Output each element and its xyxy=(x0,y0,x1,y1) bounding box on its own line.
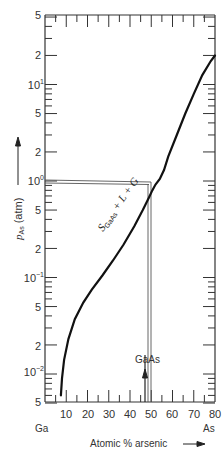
y-tick-label: 5 xyxy=(35,204,41,216)
y-tick-label: 5 xyxy=(35,107,41,119)
y-axis-title: pAs(atm) xyxy=(12,198,25,241)
gaas-label: GaAs xyxy=(135,354,160,365)
as-label: As xyxy=(203,423,215,434)
three-phase-curve xyxy=(61,56,215,396)
arrow-up-icon xyxy=(16,137,21,146)
x-axis-arrow xyxy=(183,442,205,447)
y-tick-label: 5 xyxy=(35,396,41,408)
x-tick-label: 40 xyxy=(124,408,136,420)
y-tick-label: 2 xyxy=(35,146,41,158)
y-axis-arrow xyxy=(16,137,21,185)
x-axis-title: Atomic % arsenic xyxy=(90,438,167,449)
y-axis-tick-labels: 52101521005210−15210−25 xyxy=(24,9,44,408)
x-tick-label: 50 xyxy=(145,408,157,420)
y-tick-label: 10−2 xyxy=(24,365,44,378)
x-tick-label: 70 xyxy=(188,408,200,420)
x-axis-tick-labels: 1020304050607080 xyxy=(60,408,221,420)
phase-diagram-chart: 52101521005210−15210−25 1020304050607080… xyxy=(0,0,223,466)
y-tick-label: 100 xyxy=(28,174,44,187)
y-tick-label: 2 xyxy=(35,340,41,352)
y-tick-label: 2 xyxy=(35,243,41,255)
y-tick-label: 101 xyxy=(28,78,44,91)
arrow-up-icon xyxy=(143,369,148,378)
x-tick-label: 60 xyxy=(166,408,178,420)
x-tick-label: 80 xyxy=(209,408,221,420)
plot-frame xyxy=(45,15,215,402)
svg-text:pAs(atm): pAs(atm) xyxy=(12,198,25,241)
reference-lines xyxy=(45,180,151,402)
y-tick-label: 2 xyxy=(35,49,41,61)
y-axis-ticks xyxy=(45,17,215,403)
x-tick-label: 30 xyxy=(103,408,115,420)
x-tick-label: 10 xyxy=(60,408,72,420)
ga-label: Ga xyxy=(35,423,49,434)
arrow-right-icon xyxy=(197,442,205,447)
x-axis-ticks xyxy=(56,15,205,402)
y-tick-label: 10−1 xyxy=(24,271,44,284)
y-tick-label: 5 xyxy=(35,301,41,313)
x-tick-label: 20 xyxy=(82,408,94,420)
y-tick-label: 5 xyxy=(35,9,41,21)
